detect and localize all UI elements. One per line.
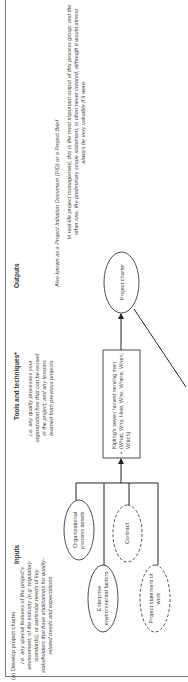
section-label: (a) Develop project charter	[10, 611, 17, 680]
outputs-note-importance: In real-life project management, this is…	[66, 2, 87, 242]
node-kipling: • Kipling's seven honest serving men (Wh…	[104, 352, 139, 454]
node-contract: Contract	[114, 507, 141, 560]
node-statement-of-work: Project statement of work	[142, 571, 168, 626]
kipling-text: Kipling's seven honest serving men (What…	[111, 352, 132, 449]
outputs-heading: Outputs	[13, 264, 20, 289]
tools-note: i.e. any quality processes your organiza…	[27, 352, 55, 444]
inputs-note: i.e. any special features of the project…	[19, 553, 54, 678]
rotated-page: (a) Develop project charter i.e. any spe…	[0, 0, 188, 682]
node-org-process-assets: Organizational process assets	[66, 502, 92, 558]
node-project-charter: Project charter	[108, 256, 136, 308]
bullet-icon: •	[118, 452, 125, 454]
inputs-heading: Inputs	[13, 545, 20, 564]
node-enterprise-factors: Enterprise environmental factors	[90, 571, 116, 626]
tools-heading: Tools and techniques*	[13, 352, 20, 420]
outputs-note-pid: Also known as a Project Initiation Docum…	[54, 0, 61, 287]
